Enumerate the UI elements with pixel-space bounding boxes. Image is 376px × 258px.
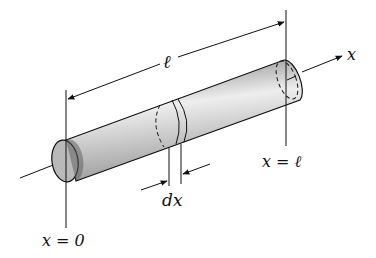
dx-label: dx	[162, 190, 183, 210]
length-dim-left	[68, 64, 160, 99]
axis-label: x	[347, 45, 356, 64]
dx-arrow-left	[141, 181, 167, 190]
left-end-label: x = 0	[42, 231, 85, 250]
dx-arrow-right	[183, 164, 210, 174]
right-end-label: x = ℓ	[262, 152, 302, 171]
axis-arrow	[302, 56, 342, 72]
rod-diagram: x ℓ dx x = 0 x = ℓ	[0, 0, 376, 258]
length-label: ℓ	[163, 51, 171, 72]
length-dim-right	[178, 22, 284, 57]
